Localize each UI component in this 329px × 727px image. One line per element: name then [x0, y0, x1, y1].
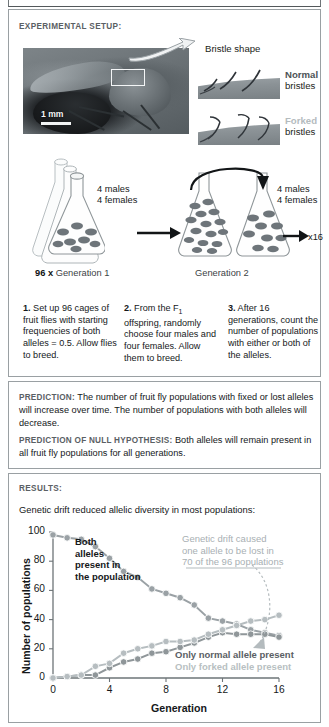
y-tick-80: 80 [19, 554, 45, 565]
chart-data-point [177, 594, 184, 601]
generation1-caption: 96 x Generation 1 [35, 268, 109, 278]
chart-data-point [262, 616, 269, 623]
forked-bristle-image [198, 113, 280, 145]
chart-data-point [247, 631, 254, 638]
chart-data-point [276, 634, 283, 641]
protocol-steps: 1. Set up 96 cages of fruit flies with s… [23, 303, 323, 364]
step-1-text: Set up 96 cages of fruit flies with star… [23, 303, 117, 360]
generation1-flask-stack [27, 156, 105, 264]
scale-bar-label: 1 mm [41, 109, 63, 119]
chart-data-point [50, 675, 57, 682]
chart-data-point [163, 590, 170, 597]
step-1: 1. Set up 96 cages of fruit flies with s… [23, 303, 118, 364]
forked-bristles-label: Forked bristles [285, 116, 317, 137]
chart-data-point [219, 627, 226, 634]
allele-frequency-chart: Number of populations Generation 0204060… [9, 518, 322, 722]
step-3: 3. After 16 generations, count the numbe… [228, 303, 321, 364]
y-tick-20: 20 [19, 642, 45, 653]
chart-data-point [120, 650, 127, 657]
step-2-text-a: From the F [132, 303, 179, 313]
results-panel: RESULTS: Genetic drift reduced allelic d… [8, 473, 321, 723]
x-tick-4: 4 [98, 684, 122, 695]
null-prediction-tag: PREDICTION OF NULL HYPOTHESIS: [19, 436, 172, 445]
generation2-counts: 4 males4 females [277, 184, 317, 207]
repeat-arrow-icon [283, 229, 309, 243]
genetic-drift-annotation: Genetic drift causedone allele to be los… [182, 533, 283, 568]
panel-top-cutoff [8, 0, 321, 7]
chart-data-point [149, 650, 156, 657]
experimental-setup-panel: EXPERIMENTAL SETUP: 1 mm Bristle shape [8, 9, 321, 377]
generation1-caption-text: Generation 1 [53, 268, 109, 278]
chart-data-point [233, 631, 240, 638]
chart-data-point [247, 618, 254, 625]
both-alleles-annotation: Bothallelespresent inthe population [75, 536, 140, 582]
transfer-arrow-icon [187, 156, 273, 196]
step-3-number: 3. [228, 303, 236, 313]
y-tick-0: 0 [19, 671, 45, 682]
x-axis-title: Generation [69, 702, 289, 714]
chart-data-point [205, 631, 212, 638]
generation1-count-bold: 96 x [35, 268, 53, 278]
chart-data-point [233, 622, 240, 629]
figure-page: EXPERIMENTAL SETUP: 1 mm Bristle shape [0, 0, 329, 727]
generation1-counts: 4 males4 females [97, 184, 137, 207]
bristle-shape-title: Bristle shape [205, 43, 260, 54]
callout-arrow-icon [127, 38, 197, 62]
chart-data-point [50, 532, 57, 539]
legend-normal-allele: Only normal allele present [175, 649, 294, 661]
chart-data-point [106, 660, 113, 667]
step-2-text-b: offspring, randomly choose four males an… [124, 318, 216, 363]
chart-data-point [177, 638, 184, 645]
x-tick-0: 0 [41, 684, 65, 695]
scale-bar [41, 122, 71, 126]
prediction-tag: PREDICTION: [19, 393, 75, 402]
chart-data-point [134, 656, 141, 663]
chart-data-point [276, 612, 283, 619]
x-tick-12: 12 [211, 684, 235, 695]
chart-data-point [92, 663, 99, 670]
results-section-label: RESULTS: [19, 484, 62, 493]
prediction-panel: PREDICTION: The number of fruit fly popu… [8, 381, 321, 469]
prediction-null: PREDICTION OF NULL HYPOTHESIS: Both alle… [19, 434, 314, 460]
normal-bristles-label: Normal bristles [285, 70, 318, 91]
y-tick-60: 60 [19, 583, 45, 594]
setup-section-label: EXPERIMENTAL SETUP: [19, 22, 122, 31]
chart-data-point [64, 535, 71, 542]
y-tick-40: 40 [19, 613, 45, 624]
annotation-arrowhead [253, 637, 265, 649]
chart-data-point [163, 648, 170, 655]
chart-data-point [64, 673, 71, 680]
legend-forked-allele: Only forked allele present [175, 661, 291, 673]
step-2-number: 2. [124, 303, 132, 313]
chart-data-point [205, 615, 212, 622]
chart-data-point [163, 638, 170, 645]
normal-word: Normal [285, 70, 318, 81]
y-tick-100: 100 [19, 525, 45, 536]
x-tick-8: 8 [154, 684, 178, 695]
chart-data-point [219, 618, 226, 625]
step-2: 2. From the F1 offspring, randomly choos… [124, 303, 222, 364]
prediction-main: PREDICTION: The number of fruit fly popu… [19, 391, 314, 429]
chart-data-point [149, 643, 156, 650]
region-of-interest-box [111, 69, 145, 86]
repeat-count-label: x16 [308, 232, 323, 242]
normal-bristle-image [198, 67, 280, 99]
chart-data-point [191, 637, 198, 644]
bristles-word: bristles [285, 127, 317, 138]
chart-data-point [78, 672, 85, 679]
chart-data-point [92, 672, 99, 679]
chart-data-point [191, 602, 198, 609]
chart-data-point [120, 659, 127, 666]
chart-data-point [149, 586, 156, 593]
chart-data-point [134, 646, 141, 653]
flask-breeding-diagram: 4 males4 females [9, 150, 329, 300]
x-tick-16: 16 [267, 684, 291, 695]
forked-word: Forked [285, 116, 317, 127]
bristles-word: bristles [285, 81, 318, 92]
step-2-subscript: 1 [179, 308, 183, 315]
step-3-text: After 16 generations, count the number o… [228, 303, 318, 360]
step-1-number: 1. [23, 303, 31, 313]
results-caption: Genetic drift reduced allelic diversity … [19, 504, 314, 515]
generation2-caption: Generation 2 [195, 268, 249, 278]
